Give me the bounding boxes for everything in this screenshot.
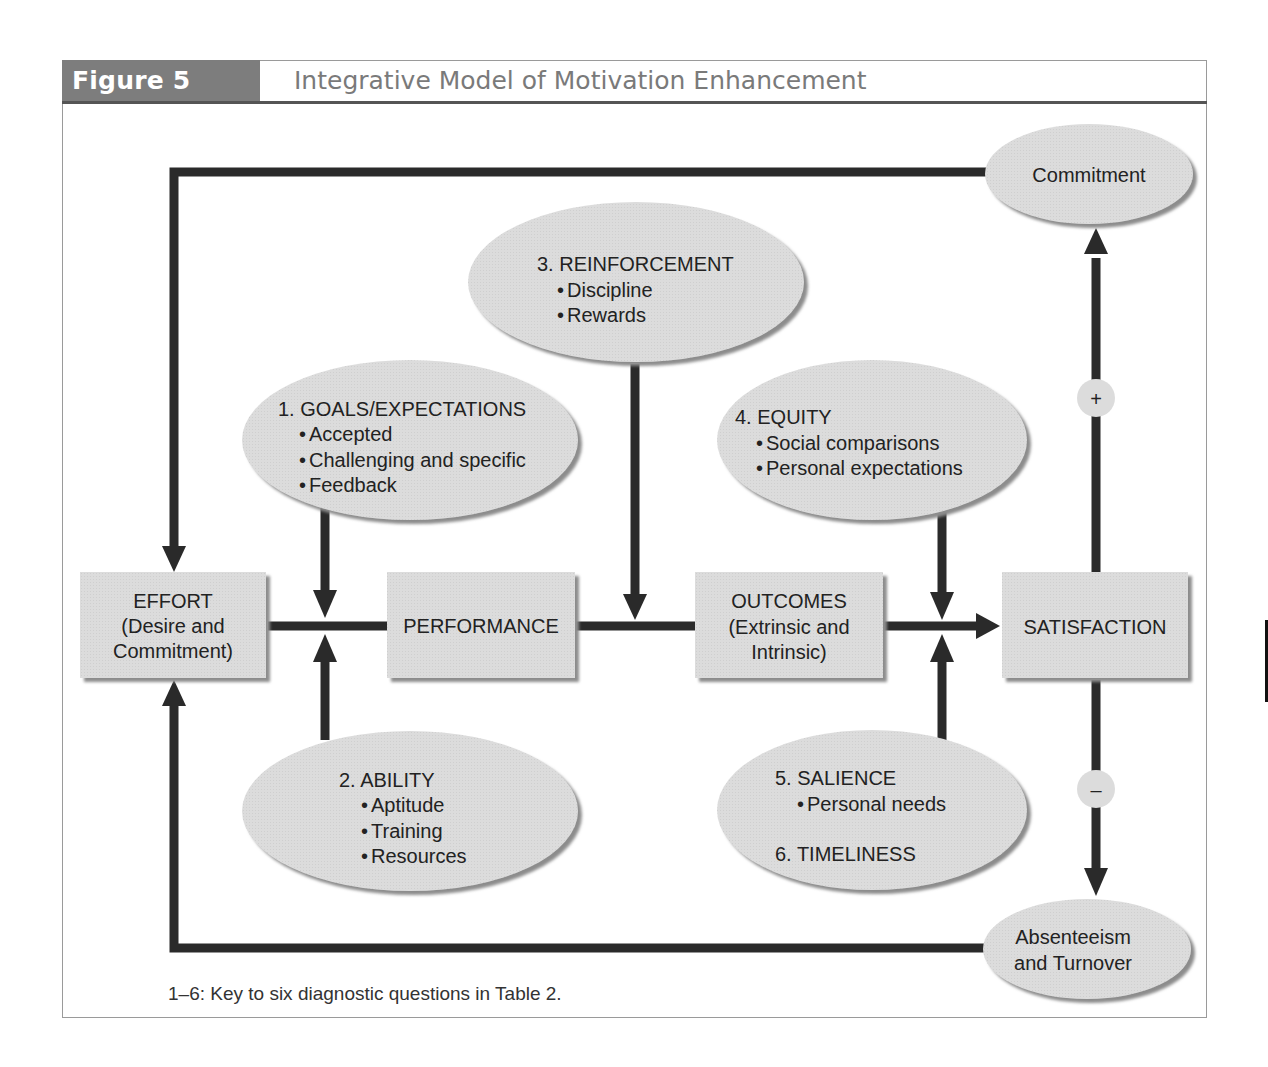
arrow-down-icon bbox=[623, 594, 647, 620]
arrow-up-icon bbox=[1084, 228, 1108, 254]
svg-text:3. REINFORCEMENT: 3. REINFORCEMENT bbox=[537, 253, 734, 275]
svg-text:1. GOALS/EXPECTATIONS: 1. GOALS/EXPECTATIONS bbox=[278, 398, 526, 420]
effort-box: EFFORT (Desire and Commitment) bbox=[80, 572, 266, 678]
bullet-item: •Personal needs bbox=[797, 793, 946, 815]
arrow-right-icon bbox=[976, 613, 1000, 639]
bullet-item: •Rewards bbox=[557, 304, 646, 326]
motivation-model-diagram: + – Commitment Absenteeism and Turnover … bbox=[0, 0, 1268, 1067]
positive-sign: + bbox=[1077, 379, 1115, 417]
satisfaction-box: SATISFACTION bbox=[1002, 572, 1188, 678]
svg-text:SATISFACTION: SATISFACTION bbox=[1024, 616, 1167, 638]
svg-text:(Desire and: (Desire and bbox=[121, 615, 224, 637]
bullet-item: •Feedback bbox=[299, 474, 398, 496]
svg-text:OUTCOMES: OUTCOMES bbox=[731, 590, 847, 612]
svg-text:2. ABILITY: 2. ABILITY bbox=[339, 769, 435, 791]
arrow-down-icon bbox=[1084, 868, 1108, 896]
bullet-item: •Social comparisons bbox=[756, 432, 939, 454]
performance-box: PERFORMANCE bbox=[387, 572, 575, 678]
svg-text:Absenteeism: Absenteeism bbox=[1015, 926, 1131, 948]
outcomes-box: OUTCOMES (Extrinsic and Intrinsic) bbox=[695, 572, 883, 678]
minus-icon: – bbox=[1090, 779, 1102, 801]
commitment-node: Commitment bbox=[985, 124, 1193, 224]
arrow-down-icon bbox=[313, 590, 337, 618]
bullet-item: •Personal expectations bbox=[756, 457, 963, 479]
svg-text:PERFORMANCE: PERFORMANCE bbox=[403, 615, 559, 637]
svg-text:6. TIMELINESS: 6. TIMELINESS bbox=[775, 843, 916, 865]
svg-text:Commitment: Commitment bbox=[1032, 164, 1146, 186]
absenteeism-node: Absenteeism and Turnover bbox=[983, 899, 1191, 999]
salience-timeliness-node: 5. SALIENCE •Personal needs 6. TIMELINES… bbox=[717, 730, 1027, 890]
figure-footnote: 1–6: Key to six diagnostic questions in … bbox=[168, 983, 562, 1005]
bullet-item: •Accepted bbox=[299, 423, 392, 445]
arrow-up-icon bbox=[930, 634, 954, 662]
ability-node: 2. ABILITY •Aptitude •Training •Resource… bbox=[242, 731, 578, 891]
equity-node: 4. EQUITY •Social comparisons •Personal … bbox=[717, 360, 1027, 520]
arrow-down-icon bbox=[930, 592, 954, 620]
svg-text:Intrinsic): Intrinsic) bbox=[751, 641, 827, 663]
bullet-item: •Aptitude bbox=[361, 794, 444, 816]
svg-text:(Extrinsic and: (Extrinsic and bbox=[728, 616, 849, 638]
plus-icon: + bbox=[1090, 388, 1102, 410]
goals-expectations-node: 1. GOALS/EXPECTATIONS •Accepted •Challen… bbox=[242, 360, 578, 520]
svg-text:Commitment): Commitment) bbox=[113, 640, 233, 662]
negative-sign: – bbox=[1077, 770, 1115, 808]
svg-text:and Turnover: and Turnover bbox=[1014, 952, 1132, 974]
svg-text:4. EQUITY: 4. EQUITY bbox=[735, 406, 832, 428]
bullet-item: •Discipline bbox=[557, 279, 653, 301]
reinforcement-node: 3. REINFORCEMENT •Discipline •Rewards bbox=[468, 202, 804, 362]
svg-text:5. SALIENCE: 5. SALIENCE bbox=[775, 767, 896, 789]
arrow-down-icon bbox=[162, 546, 186, 572]
arrow-up-icon bbox=[162, 680, 186, 706]
svg-text:EFFORT: EFFORT bbox=[133, 590, 213, 612]
bullet-item: •Training bbox=[361, 820, 443, 842]
arrow-up-icon bbox=[313, 634, 337, 662]
bullet-item: •Resources bbox=[361, 845, 467, 867]
bullet-item: •Challenging and specific bbox=[299, 449, 526, 471]
